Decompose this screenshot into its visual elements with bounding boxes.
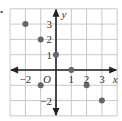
- x-tick-label: 3: [99, 73, 105, 85]
- data-points: [22, 21, 105, 104]
- x-tick-label: 2: [84, 73, 90, 85]
- x-axis-left-arrow-icon: [10, 67, 18, 74]
- x-tick-label: 1: [69, 73, 75, 85]
- data-point: [99, 98, 105, 104]
- list-bullet: •: [0, 7, 3, 17]
- origin-label: O: [43, 73, 51, 85]
- x-axis-label: x: [112, 73, 118, 85]
- y-axis-down-arrow-icon: [53, 108, 60, 116]
- data-point: [22, 21, 28, 27]
- data-point: [53, 52, 59, 58]
- y-axis-up-arrow-icon: [53, 9, 60, 17]
- x-tick-label: −2: [20, 73, 32, 85]
- data-point: [38, 36, 44, 42]
- tick-labels: −2231321−2Oxy: [20, 8, 118, 107]
- y-tick-label: −2: [40, 95, 52, 107]
- y-tick-label: 3: [47, 18, 53, 30]
- y-tick-label: 2: [47, 33, 53, 45]
- y-tick-label: 1: [47, 49, 53, 61]
- y-axis-label: y: [61, 8, 67, 20]
- coordinate-plane: • −2231321−2Oxy: [0, 0, 122, 121]
